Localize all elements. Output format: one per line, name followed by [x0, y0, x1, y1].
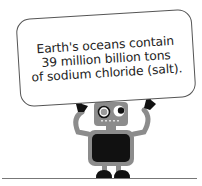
ground-line	[2, 178, 197, 179]
fact-card: Earth's oceans contain 39 million billio…	[15, 9, 196, 108]
illustration: Earth's oceans contain 39 million billio…	[0, 0, 202, 186]
